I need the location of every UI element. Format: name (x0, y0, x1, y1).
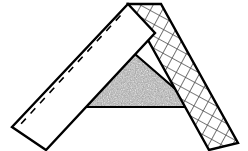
geometric-figure: Two hatched strips meeting at an apex ov… (0, 0, 248, 151)
figure-canvas: Two hatched strips meeting at an apex ov… (0, 0, 248, 151)
